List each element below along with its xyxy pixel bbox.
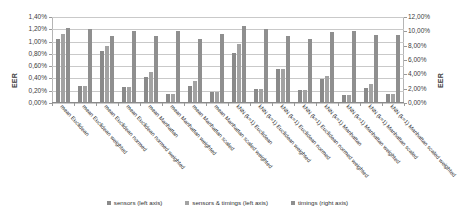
legend-swatch-icon <box>185 201 189 205</box>
bar-group <box>52 17 74 103</box>
y-axis-right-tickmark <box>404 89 407 90</box>
bar <box>105 46 110 103</box>
y-axis-left-tickmark <box>49 42 52 43</box>
bar <box>198 39 203 103</box>
y-axis-left-tick-label: 1,40% <box>29 14 47 21</box>
bar <box>122 87 127 103</box>
bar-group <box>206 17 228 103</box>
bar-group <box>338 17 360 103</box>
bar <box>144 77 149 103</box>
bar <box>264 29 269 103</box>
bar <box>396 35 401 103</box>
legend-item[interactable]: timings (right axis) <box>291 199 348 206</box>
bar <box>83 86 88 103</box>
y-axis-right-tickmark <box>404 60 407 61</box>
bar-group <box>118 17 140 103</box>
bar <box>100 51 105 103</box>
bar <box>110 36 115 103</box>
bar <box>66 28 71 103</box>
y-axis-left-tickmark <box>49 66 52 67</box>
y-axis-right-tick-label: 10,00% <box>408 28 430 35</box>
bar <box>220 34 225 103</box>
bar <box>303 90 308 104</box>
y-axis-left-tick-label: 1,20% <box>29 26 47 33</box>
y-axis-right-ticks: 0,00%2,00%4,00%6,00%8,00%10,00%12,00% <box>406 17 436 103</box>
bar-group <box>184 17 206 103</box>
bar <box>308 39 313 104</box>
bar <box>259 89 264 103</box>
y-axis-right-tickmark <box>404 103 407 104</box>
bar-group <box>74 17 96 103</box>
bar <box>325 76 330 103</box>
bar-series-group <box>52 17 404 103</box>
plot-area <box>52 17 404 103</box>
y-axis-right-tickmark <box>404 17 407 18</box>
bar-group <box>272 17 294 103</box>
legend-swatch-icon <box>291 201 295 205</box>
x-axis-category-label: mean Euclidean normed <box>103 104 148 153</box>
bar <box>330 32 335 103</box>
legend-swatch-icon <box>107 201 111 205</box>
bar <box>232 53 237 103</box>
legend-label: sensors (left axis) <box>114 199 162 206</box>
y-axis-left-tick-label: 1,00% <box>29 38 47 45</box>
legend-item[interactable]: sensors & timings (left axis) <box>185 199 268 206</box>
bar <box>320 79 325 103</box>
y-axis-left-tickmark <box>49 91 52 92</box>
y-axis-left-tick-label: 0,00% <box>29 100 47 107</box>
y-axis-right-tickmark <box>404 31 407 32</box>
bar <box>78 86 83 103</box>
y-axis-left-ticks: 0,00%0,20%0,40%0,60%0,80%1,00%1,20%1,40% <box>19 17 49 103</box>
bar-group <box>382 17 404 103</box>
bar <box>132 31 137 103</box>
y-axis-right-tick-label: 0,00% <box>408 100 426 107</box>
y-axis-right-tick-label: 8,00% <box>408 42 426 49</box>
bar-group <box>140 17 162 103</box>
bar-group <box>316 17 338 103</box>
y-axis-left-title: EER <box>11 48 18 88</box>
y-axis-right-tick-label: 4,00% <box>408 71 426 78</box>
bar <box>276 69 281 103</box>
bar <box>374 35 379 103</box>
chart-legend: sensors (left axis)sensors & timings (le… <box>0 199 455 206</box>
bar <box>154 36 159 103</box>
y-axis-right-tickmark <box>404 46 407 47</box>
y-axis-left-tick-label: 0,20% <box>29 87 47 94</box>
bar <box>193 81 198 103</box>
y-axis-left-tick-label: 0,80% <box>29 51 47 58</box>
y-axis-left-tickmark <box>49 29 52 30</box>
bar-group <box>360 17 382 103</box>
legend-item[interactable]: sensors (left axis) <box>107 199 162 206</box>
y-axis-left-tickmark <box>49 78 52 79</box>
x-axis-category-label: mean Manhattan scaled <box>191 104 235 152</box>
bar <box>56 39 61 103</box>
y-axis-left-tick-label: 0,40% <box>29 75 47 82</box>
bar <box>364 88 369 103</box>
bar <box>254 89 259 103</box>
legend-label: timings (right axis) <box>298 199 348 206</box>
bar <box>127 87 132 103</box>
y-axis-right-title: EER <box>437 48 444 88</box>
bar <box>298 90 303 104</box>
bar <box>176 31 181 103</box>
bar-group <box>228 17 250 103</box>
y-axis-left-tickmark <box>49 17 52 18</box>
y-axis-right-tick-label: 2,00% <box>408 85 426 92</box>
x-axis-category-labels: mean Euclideanmean Euclidean weightedmea… <box>52 104 404 192</box>
bar-group <box>250 17 272 103</box>
bar <box>188 86 193 103</box>
y-axis-right-tick-label: 6,00% <box>408 57 426 64</box>
x-axis-category-label: kNN (k=1) Manhattan <box>323 104 363 147</box>
legend-label: sensors & timings (left axis) <box>192 199 268 206</box>
bar <box>286 36 291 103</box>
bar <box>281 69 286 103</box>
bar-group <box>162 17 184 103</box>
bar <box>369 84 374 103</box>
bar <box>242 26 247 103</box>
bar-group <box>96 17 118 103</box>
bar <box>352 31 357 103</box>
bar <box>149 72 154 103</box>
y-axis-right-tick-label: 12,00% <box>408 14 430 21</box>
y-axis-right-tickmark <box>404 74 407 75</box>
